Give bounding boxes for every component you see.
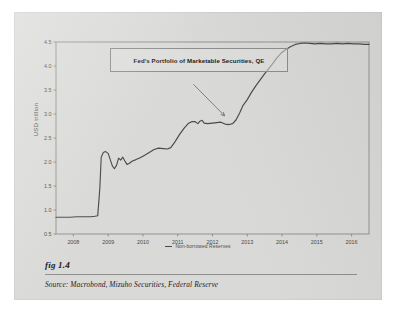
- chart-annotation-text: Fed's Portfolio of Marketable Securities…: [134, 57, 265, 64]
- legend-label: Non-borrowed Reserves: [175, 244, 230, 249]
- caption-divider: [45, 274, 357, 275]
- svg-text:3.5: 3.5: [44, 87, 52, 93]
- svg-text:2.5: 2.5: [44, 135, 52, 141]
- svg-text:4.5: 4.5: [44, 39, 52, 45]
- svg-text:0.5: 0.5: [44, 231, 52, 237]
- legend-swatch-icon: [165, 246, 172, 247]
- figure-label: fig 1.4: [45, 260, 70, 270]
- chart-annotation-box: Fed's Portfolio of Marketable Securities…: [110, 48, 288, 72]
- svg-text:1.5: 1.5: [44, 183, 52, 189]
- svg-text:3.0: 3.0: [44, 111, 52, 117]
- svg-text:2.0: 2.0: [44, 159, 52, 165]
- figure-page: USD trillion 0.51.01.52.02.53.03.54.04.5…: [14, 12, 382, 300]
- svg-text:1.0: 1.0: [44, 207, 52, 213]
- chart-container: USD trillion 0.51.01.52.02.53.03.54.04.5…: [14, 12, 382, 252]
- source-line: Source: Macrobond, Mizuho Securities, Fe…: [45, 280, 218, 289]
- chart-legend: Non-borrowed Reserves: [14, 244, 382, 249]
- svg-text:4.0: 4.0: [44, 63, 52, 69]
